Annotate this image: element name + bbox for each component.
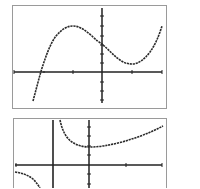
graph-frame (13, 6, 167, 109)
cubic-graph-svg (0, 0, 200, 112)
cubic-graph (0, 0, 200, 112)
rational-graph-svg (0, 112, 200, 188)
rational-graph (0, 112, 200, 188)
graph-frame (14, 119, 167, 189)
